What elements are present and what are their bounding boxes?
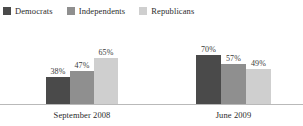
x-axis-label-september-2008: September 2008 [0, 110, 164, 120]
legend-item-independents: Independents [67, 4, 126, 17]
bar-value-label: 49% [251, 59, 266, 68]
legend-label-republicans: Republicans [151, 6, 194, 16]
legend-swatch-independents [67, 7, 75, 15]
bar-value-label: 47% [75, 61, 90, 70]
legend-swatch-republicans [139, 7, 147, 15]
bar-slot: 47% [70, 22, 94, 104]
bar-independents-september-2008 [70, 71, 94, 104]
legend-item-democrats: Democrats [3, 4, 53, 17]
bar-chart: Democrats Independents Republicans 38% 4… [0, 0, 303, 126]
x-axis-label-june-2009: June 2009 [164, 110, 303, 120]
bar-slot: 38% [46, 22, 70, 104]
bar-value-label: 65% [99, 48, 114, 57]
bar-slot: 57% [221, 22, 246, 104]
chart-legend: Democrats Independents Republicans [3, 4, 194, 17]
bar-slot: 49% [246, 22, 271, 104]
legend-swatch-democrats [3, 7, 11, 15]
bar-group-june-2009: 70% 57% 49% [196, 22, 271, 104]
bar-slot: 65% [94, 22, 118, 104]
bar-independents-june-2009 [221, 64, 246, 104]
bar-value-label: 70% [201, 45, 216, 54]
legend-item-republicans: Republicans [139, 4, 194, 17]
bar-value-label: 57% [226, 54, 241, 63]
bar-democrats-september-2008 [46, 77, 70, 104]
bar-value-label: 38% [51, 67, 66, 76]
bar-republicans-september-2008 [94, 58, 118, 104]
bar-slot: 70% [196, 22, 221, 104]
plot-area: 38% 47% 65% 70% 57% [0, 22, 303, 105]
x-axis-baseline [0, 104, 303, 105]
legend-label-independents: Independents [79, 6, 126, 16]
bar-republicans-june-2009 [246, 69, 271, 104]
bar-group-september-2008: 38% 47% 65% [46, 22, 118, 104]
bar-group-bars: 70% 57% 49% [196, 22, 271, 104]
bar-democrats-june-2009 [196, 55, 221, 104]
legend-label-democrats: Democrats [15, 6, 53, 16]
bar-group-bars: 38% 47% 65% [46, 22, 118, 104]
